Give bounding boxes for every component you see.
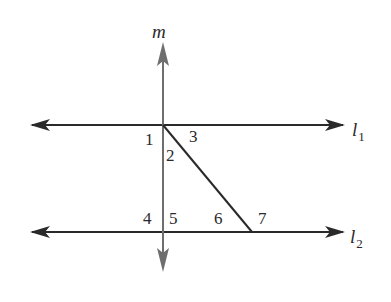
label-l2-text: l [350, 226, 355, 247]
label-l1-text: l [352, 119, 357, 140]
angle-label-4: 4 [143, 210, 152, 227]
label-l2-subscript: 2 [356, 236, 363, 251]
angle-label-6: 6 [214, 210, 223, 227]
angle-label-1: 1 [145, 131, 154, 148]
geometry-diagram: m l1 l2 1 2 3 4 5 6 7 [0, 0, 391, 302]
label-m-text: m [152, 21, 166, 42]
angle-label-7: 7 [258, 210, 267, 227]
angle-label-2: 2 [166, 147, 175, 164]
label-l1-subscript: 1 [358, 129, 365, 144]
label-m: m [152, 22, 166, 41]
label-l1: l1 [352, 120, 365, 139]
label-l2: l2 [350, 227, 363, 246]
angle-label-5: 5 [169, 210, 178, 227]
angle-label-3: 3 [189, 128, 198, 145]
diagram-canvas [0, 0, 391, 302]
